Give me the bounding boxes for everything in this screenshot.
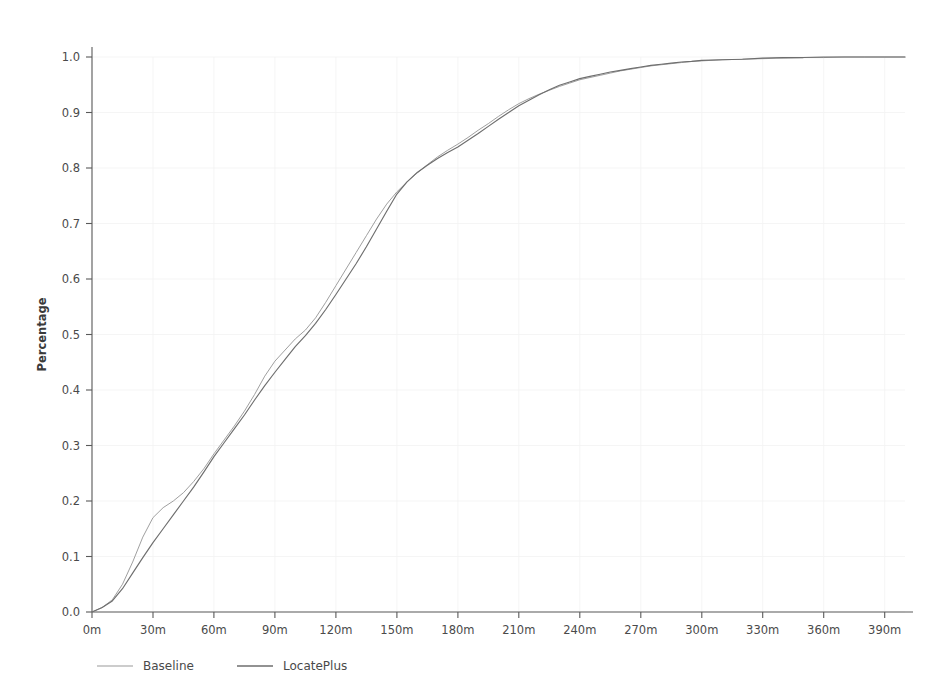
chart-canvas: 0m30m60m90m120m150m180m210m240m270m300m3… — [0, 0, 943, 698]
cdf-chart-figure: 0m30m60m90m120m150m180m210m240m270m300m3… — [0, 0, 943, 698]
y-tick-label: 0.2 — [62, 494, 80, 508]
y-tick-label: 0.6 — [62, 272, 80, 286]
y-tick-label: 0.1 — [62, 550, 80, 564]
y-tick-label: 0.7 — [62, 217, 80, 231]
y-tick-label: 0.8 — [62, 161, 80, 175]
y-tick-label: 0.5 — [62, 328, 80, 342]
x-tick-label: 60m — [201, 623, 227, 637]
x-tick-label: 0m — [83, 623, 102, 637]
x-tick-label: 90m — [262, 623, 288, 637]
y-tick-label: 0.0 — [62, 605, 80, 619]
x-tick-label: 300m — [685, 623, 718, 637]
y-axis-title-text: Percentage — [35, 297, 49, 371]
legend-label-locateplus: LocatePlus — [283, 659, 347, 673]
chart-legend: BaselineLocatePlus — [97, 659, 347, 673]
gridlines-group — [92, 57, 905, 612]
legend-label-baseline: Baseline — [143, 659, 194, 673]
x-tick-label: 180m — [441, 623, 474, 637]
x-tick-label: 390m — [868, 623, 901, 637]
y-axis-title: Percentage — [35, 297, 49, 371]
y-tick-label: 0.9 — [62, 106, 80, 120]
y-tick-label: 0.4 — [62, 383, 80, 397]
y-tick-label: 1.0 — [62, 50, 80, 64]
x-tick-label: 30m — [140, 623, 166, 637]
x-tick-label: 360m — [807, 623, 840, 637]
x-tick-label: 330m — [746, 623, 779, 637]
x-tick-label: 240m — [563, 623, 596, 637]
x-tick-label: 150m — [380, 623, 413, 637]
x-tick-label: 210m — [502, 623, 535, 637]
x-tick-label: 270m — [624, 623, 657, 637]
y-tick-label: 0.3 — [62, 439, 80, 453]
x-axis: 0m30m60m90m120m150m180m210m240m270m300m3… — [83, 612, 913, 637]
y-axis: 0.00.10.20.30.40.50.60.70.80.91.0 — [62, 47, 92, 619]
x-tick-label: 120m — [319, 623, 352, 637]
